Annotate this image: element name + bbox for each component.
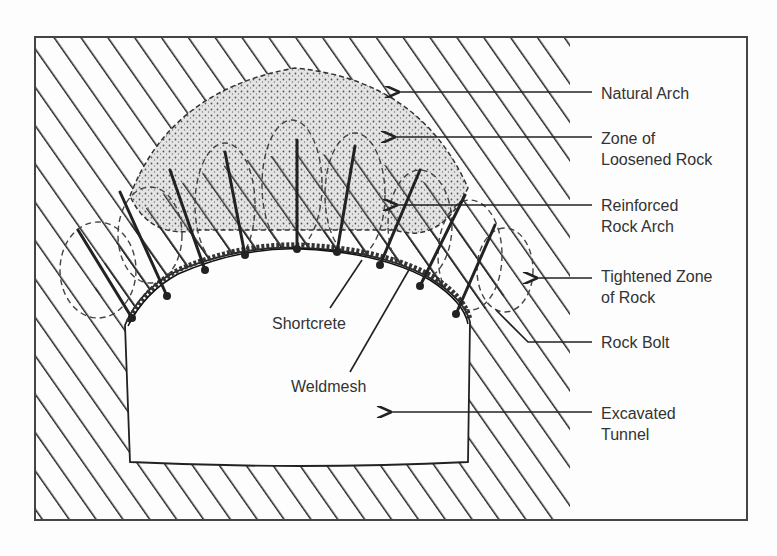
label-weldmesh: Weldmesh xyxy=(291,376,366,397)
label-natural-arch: Natural Arch xyxy=(601,83,689,104)
label-line: Tunnel xyxy=(601,424,676,445)
label-reinforced-rock-arch: Reinforced Rock Arch xyxy=(601,195,678,237)
label-line: Tightened Zone xyxy=(601,266,712,287)
label-line: Reinforced xyxy=(601,195,678,216)
label-line: Excavated xyxy=(601,403,676,424)
label-line: Loosened Rock xyxy=(601,149,712,170)
label-line: of Rock xyxy=(601,287,712,308)
label-line: Zone of xyxy=(601,128,712,149)
label-zone-of-loosened-rock: Zone of Loosened Rock xyxy=(601,128,712,170)
label-shortcrete: Shortcrete xyxy=(272,313,346,334)
label-excavated-tunnel: Excavated Tunnel xyxy=(601,403,676,445)
label-tightened-zone-of-rock: Tightened Zone of Rock xyxy=(601,266,712,308)
excavated-tunnel xyxy=(125,248,470,466)
label-rock-bolt: Rock Bolt xyxy=(601,332,669,353)
label-line: Rock Arch xyxy=(601,216,678,237)
